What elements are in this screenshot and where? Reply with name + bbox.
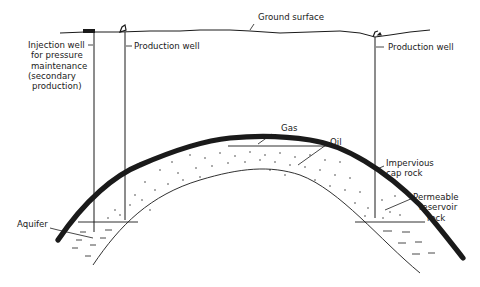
- aquifer-dashes: [72, 230, 435, 256]
- production-wellhead-icon-left: [120, 25, 126, 32]
- ground-surface-label: Ground surface: [258, 12, 324, 22]
- production-well-left-label: Production well: [134, 41, 200, 51]
- oil-label: Oil: [330, 137, 342, 147]
- cap-rock-label: Impervious cap rock: [386, 158, 434, 179]
- reservoir-base-line: [93, 169, 420, 273]
- gas-label: Gas: [281, 123, 297, 133]
- injection-well-label: Injection well for pressure maintenance …: [28, 40, 87, 91]
- aquifer-label: Aquifer: [17, 219, 48, 229]
- cap-rock: [58, 136, 463, 258]
- reservoir-rock-label: Permeable reservoir rock: [413, 192, 459, 223]
- injection-wellhead-icon: [83, 29, 95, 33]
- production-well-right-label: Production well: [388, 42, 454, 52]
